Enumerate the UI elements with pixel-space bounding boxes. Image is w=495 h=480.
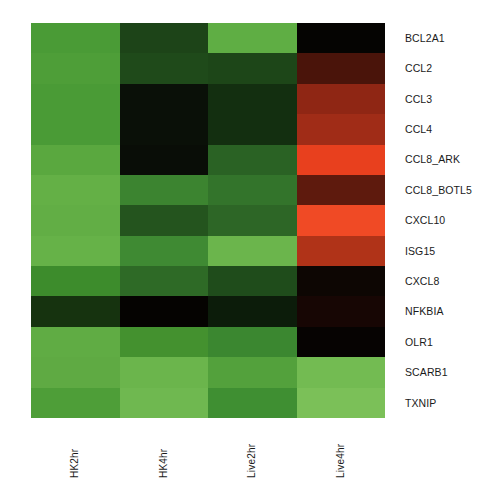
row-label-axis: BCL2A1CCL2CCL3CCL4CCL8_ARKCCL8_BOTL5CXCL… xyxy=(405,23,495,418)
row-label-olr1: OLR1 xyxy=(405,327,495,357)
column-label-hk2hr: HK2hr xyxy=(70,422,80,478)
column-label-live4hr: Live4hr xyxy=(336,422,346,478)
heatmap-cell xyxy=(120,84,209,114)
row-label-txnip: TXNIP xyxy=(405,388,495,418)
row-label-cxcl8: CXCL8 xyxy=(405,266,495,296)
column-label-slot: HK2hr xyxy=(31,420,120,478)
column-label-slot: HK4hr xyxy=(120,420,209,478)
heatmap-cell xyxy=(120,388,209,418)
heatmap-cell xyxy=(120,175,209,205)
heatmap-cell xyxy=(120,236,209,266)
heatmap-cell xyxy=(297,296,386,326)
heatmap-cell xyxy=(31,53,120,83)
heatmap-cell xyxy=(208,266,297,296)
row-label-ccl8-botl5: CCL8_BOTL5 xyxy=(405,175,495,205)
heatmap-cell xyxy=(120,327,209,357)
heatmap-figure: BCL2A1CCL2CCL3CCL4CCL8_ARKCCL8_BOTL5CXCL… xyxy=(0,0,495,480)
heatmap-cell xyxy=(208,327,297,357)
heatmap-cell xyxy=(31,175,120,205)
heatmap-cell xyxy=(297,357,386,387)
heatmap-cell xyxy=(297,53,386,83)
heatmap-cell xyxy=(31,327,120,357)
heatmap-cell xyxy=(297,266,386,296)
heatmap-cell xyxy=(208,175,297,205)
heatmap-grid xyxy=(31,23,385,418)
heatmap-cell xyxy=(208,114,297,144)
heatmap-cell xyxy=(297,114,386,144)
heatmap-cell xyxy=(208,53,297,83)
heatmap-cell xyxy=(31,114,120,144)
heatmap-cell xyxy=(120,145,209,175)
heatmap-cell xyxy=(208,236,297,266)
heatmap-cell xyxy=(31,23,120,53)
heatmap-cell xyxy=(297,205,386,235)
column-label-axis: HK2hrHK4hrLive2hrLive4hr xyxy=(31,420,385,478)
row-label-bcl2a1: BCL2A1 xyxy=(405,23,495,53)
heatmap-cell xyxy=(297,388,386,418)
heatmap-cell xyxy=(208,357,297,387)
heatmap-cell xyxy=(208,84,297,114)
heatmap-cell xyxy=(208,296,297,326)
column-label-live2hr: Live2hr xyxy=(247,422,257,478)
heatmap-cell xyxy=(31,205,120,235)
heatmap-cell xyxy=(31,236,120,266)
row-label-scarb1: SCARB1 xyxy=(405,357,495,387)
heatmap-cell xyxy=(31,84,120,114)
heatmap-cell xyxy=(120,205,209,235)
row-label-ccl4: CCL4 xyxy=(405,114,495,144)
heatmap-cell xyxy=(120,296,209,326)
column-label-hk4hr: HK4hr xyxy=(159,422,169,478)
heatmap-cell xyxy=(120,357,209,387)
heatmap-cell xyxy=(297,175,386,205)
heatmap-cell xyxy=(297,327,386,357)
heatmap-cell xyxy=(120,23,209,53)
heatmap-cell xyxy=(297,236,386,266)
heatmap-cell xyxy=(120,53,209,83)
heatmap-cell xyxy=(31,388,120,418)
heatmap-cell xyxy=(120,114,209,144)
heatmap-cell xyxy=(297,145,386,175)
heatmap-cell xyxy=(297,84,386,114)
heatmap-cell xyxy=(120,266,209,296)
row-label-isg15: ISG15 xyxy=(405,236,495,266)
row-label-nfkbia: NFKBIA xyxy=(405,296,495,326)
heatmap-cell xyxy=(31,145,120,175)
heatmap-cell xyxy=(31,266,120,296)
heatmap-cell xyxy=(31,357,120,387)
column-label-slot: Live2hr xyxy=(208,420,297,478)
heatmap-cell xyxy=(208,23,297,53)
heatmap-cell xyxy=(208,205,297,235)
row-label-cxcl10: CXCL10 xyxy=(405,205,495,235)
heatmap-cell xyxy=(208,145,297,175)
heatmap-cell xyxy=(297,23,386,53)
column-label-slot: Live4hr xyxy=(297,420,386,478)
row-label-ccl3: CCL3 xyxy=(405,84,495,114)
row-label-ccl2: CCL2 xyxy=(405,53,495,83)
row-label-ccl8-ark: CCL8_ARK xyxy=(405,145,495,175)
heatmap-cell xyxy=(31,296,120,326)
heatmap-cell xyxy=(208,388,297,418)
